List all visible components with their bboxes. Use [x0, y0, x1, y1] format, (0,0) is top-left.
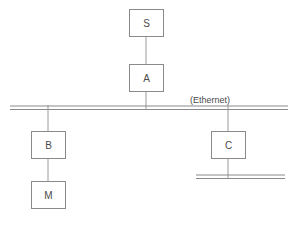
node-b[interactable]: B — [32, 132, 66, 159]
network-diagram-canvas: (Ethernet) S A B M C — [0, 0, 292, 225]
node-c-label: C — [225, 140, 232, 151]
node-m[interactable]: M — [32, 182, 66, 209]
node-s-label: S — [143, 18, 150, 29]
bus-ethernet-main — [10, 106, 288, 110]
node-s[interactable]: S — [130, 10, 164, 37]
node-m-label: M — [44, 190, 52, 201]
node-c[interactable]: C — [212, 132, 246, 159]
network-topology-svg: (Ethernet) S A B M C — [0, 0, 292, 225]
node-b-label: B — [45, 140, 52, 151]
bus-label-ethernet: (Ethernet) — [190, 95, 230, 105]
node-a[interactable]: A — [130, 65, 164, 92]
bus-segment-lower-right — [196, 175, 285, 179]
node-a-label: A — [143, 73, 150, 84]
